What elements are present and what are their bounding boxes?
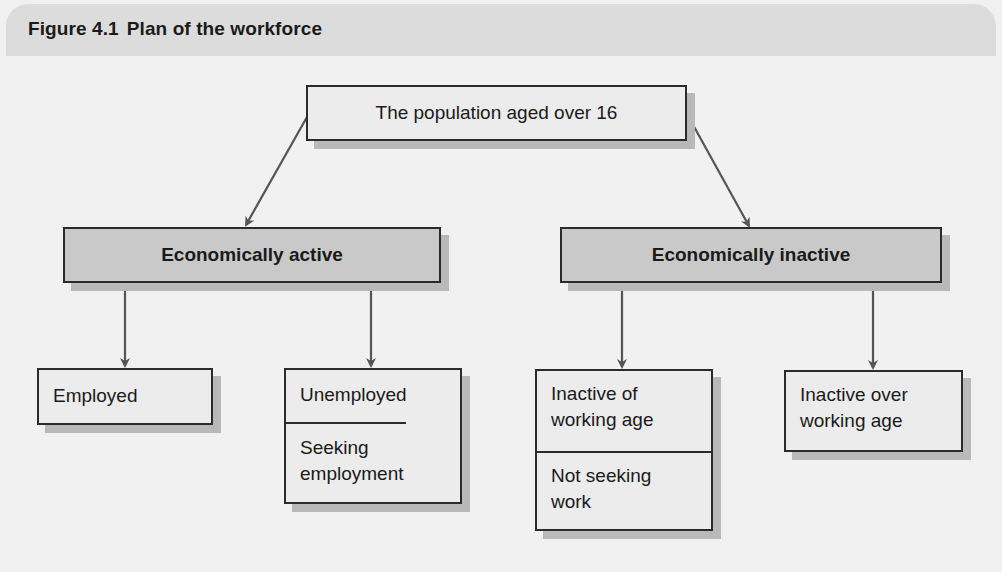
node-label: Unemployed (286, 370, 460, 422)
node-population-over-16: The population aged over 16 (306, 85, 687, 141)
node-label: Inactive of working age (537, 371, 711, 451)
node-economically-active: Economically active (63, 227, 441, 283)
node-label: Economically active (65, 229, 439, 281)
node-label: Inactive over working age (786, 372, 961, 442)
node-label: Employed (39, 370, 211, 417)
node-employed: Employed (37, 368, 213, 425)
figure-panel: Figure 4.1Plan of the workforce The popu… (0, 0, 1002, 572)
node-economically-inactive: Economically inactive (560, 227, 942, 283)
node-unemployed: Unemployed Seeking employment (284, 368, 462, 504)
node-sublabel: Not seeking work (537, 451, 711, 523)
arrow-root-to-active (246, 117, 307, 225)
node-label: The population aged over 16 (308, 87, 685, 139)
node-inactive-over-age: Inactive over working age (784, 370, 963, 452)
node-sublabel: Seeking employment (286, 422, 406, 495)
node-inactive-working-age: Inactive of working age Not seeking work (535, 369, 713, 531)
arrow-root-to-inactive (687, 114, 749, 226)
node-label: Economically inactive (562, 229, 940, 281)
